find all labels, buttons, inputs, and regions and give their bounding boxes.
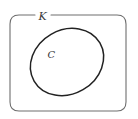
- outer-set-k-boundary: [10, 15, 126, 111]
- set-diagram: K C: [0, 0, 138, 119]
- outer-set-label: K: [38, 10, 48, 23]
- inner-set-c-boundary: [18, 15, 116, 108]
- inner-set-label: C: [48, 49, 56, 60]
